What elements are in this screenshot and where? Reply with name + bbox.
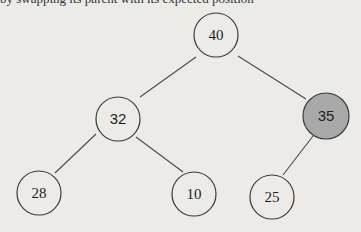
edge-40-35 [238,56,306,99]
node-label: 25 [265,189,280,205]
tree-node-28: 28 [17,171,61,215]
tree-node-25: 25 [250,175,294,219]
node-label: 10 [187,186,202,202]
tree-diagram: 40 32 35 28 10 25 [0,0,361,232]
tree-node-32: 32 [96,97,140,141]
edge-35-25 [283,136,313,175]
tree-node-40: 40 [194,13,238,57]
edges [55,56,313,175]
node-label: 35 [318,107,335,124]
node-label: 32 [110,110,127,127]
node-label: 28 [32,185,47,201]
tree-node-35-highlighted: 35 [303,93,349,139]
node-label: 40 [209,27,224,43]
edge-40-32 [140,57,196,97]
edge-32-28 [55,134,96,173]
tree-node-10: 10 [172,172,216,216]
edge-32-10 [136,137,183,172]
